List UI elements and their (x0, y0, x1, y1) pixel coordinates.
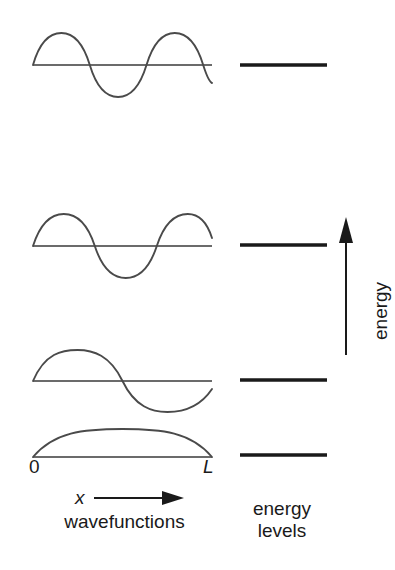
figure-canvas: 0 L x wavefunctions energy levels energy (0, 0, 395, 570)
energy-level-n1 (238, 449, 330, 461)
axis-origin-label: 0 (29, 456, 40, 477)
energy-axis-label: energy (370, 282, 391, 340)
wavefunction-n3 (28, 205, 218, 287)
wavefunctions-caption: wavefunctions (22, 511, 227, 532)
energy-level-n4 (238, 59, 330, 71)
energy-level-n2 (238, 374, 330, 386)
up-arrow-icon (336, 215, 356, 361)
right-arrow-icon (92, 488, 186, 508)
wavefunction-n1 (28, 424, 218, 464)
wavefunction-n2 (28, 345, 218, 417)
wavefunction-n4 (28, 25, 218, 105)
axis-length-label: L (203, 456, 214, 477)
x-axis-symbol: x (75, 487, 85, 508)
energy-level-n3 (238, 239, 330, 251)
energy-levels-caption-line1: energy (232, 498, 332, 519)
energy-levels-caption-line2: levels (232, 520, 332, 541)
